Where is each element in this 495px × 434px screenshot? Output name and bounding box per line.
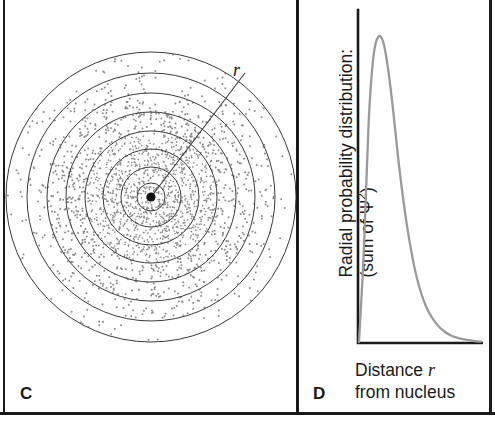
y-axis-label-line1: Radial probability distribution: — [336, 0, 356, 278]
panel-label-c: C — [20, 384, 33, 404]
x-axis-label-line2: from nucleus — [355, 382, 455, 403]
x-axis-label: Distance r from nucleus — [355, 360, 455, 403]
panel-d: Radial probability distribution: (sum of… — [299, 0, 489, 412]
x-axis-r-symbol: r — [428, 360, 435, 380]
radial-probability-chart — [355, 8, 483, 356]
frame-bottom-border — [0, 412, 495, 415]
panel-label-d: D — [313, 384, 326, 404]
nucleus-dot — [146, 192, 155, 201]
radius-leader-line — [151, 73, 245, 197]
frame-right-border — [489, 0, 492, 414]
electron-cloud-diagram — [5, 0, 296, 412]
plot-area — [355, 8, 483, 356]
x-axis-label-line1: Distance r — [355, 360, 455, 382]
figure-root: r C Radial probability distribution: (su… — [0, 0, 495, 434]
probability-curve — [359, 36, 481, 342]
panel-c: r — [5, 0, 296, 412]
radius-label: r — [233, 60, 240, 81]
x-axis-label-prefix: Distance — [355, 360, 428, 380]
